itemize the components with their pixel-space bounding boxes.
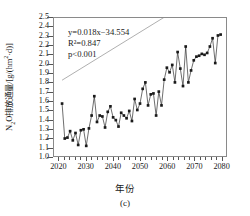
data-point-marker [109, 105, 112, 108]
x-axis-tick-labels: 2020203020402050206020702080 [0, 163, 250, 177]
y-tick-mark [47, 17, 53, 18]
data-point-marker [195, 55, 198, 58]
data-point-marker [136, 109, 139, 112]
y-tick-mark [47, 64, 53, 65]
data-point-marker [198, 54, 201, 57]
data-point-marker [152, 92, 155, 95]
data-point-marker [101, 115, 104, 118]
x-tick-mark-major [86, 157, 87, 161]
x-tick-mark-minor [91, 157, 92, 160]
x-tick-mark-minor [124, 157, 125, 160]
x-tick-label: 2020 [50, 163, 66, 171]
x-tick-mark-minor [189, 157, 190, 160]
data-point-marker [147, 104, 150, 107]
data-point-marker [71, 139, 74, 142]
y-tick-mark [47, 157, 53, 158]
data-point-marker [96, 121, 99, 124]
x-tick-label: 2040 [105, 163, 121, 171]
x-tick-mark-minor [173, 157, 174, 160]
x-tick-mark-minor [151, 157, 152, 160]
data-point-marker [141, 88, 144, 91]
x-tick-mark-minor [216, 157, 217, 160]
y-tick-mark [47, 73, 53, 74]
data-point-marker [80, 129, 83, 132]
x-tick-mark-minor [97, 157, 98, 160]
data-point-marker [166, 66, 169, 69]
data-point-marker [133, 98, 136, 101]
figure-panel-c: N2O排放通量/[g/(hm2·d)] 1.01.11.21.31.41.51.… [0, 0, 250, 216]
data-point-marker [149, 93, 152, 96]
data-point-marker [90, 114, 93, 117]
data-point-marker [66, 136, 69, 139]
data-point-marker [155, 114, 158, 117]
data-point-marker [74, 132, 77, 135]
x-tick-mark-minor [178, 157, 179, 160]
data-point-marker [123, 114, 126, 117]
y-tick-mark [47, 138, 53, 139]
x-tick-mark-major [58, 157, 59, 161]
y-tick-mark [47, 82, 53, 83]
panel-label: (c) [0, 198, 250, 208]
data-point-marker [112, 116, 115, 119]
x-tick-mark-minor [75, 157, 76, 160]
data-point-marker [211, 37, 214, 40]
data-point-marker [61, 102, 64, 105]
data-point-marker [168, 71, 171, 74]
x-tick-mark-minor [184, 157, 185, 160]
data-point-marker [179, 67, 182, 70]
data-point-marker [187, 81, 190, 84]
data-point-marker [184, 45, 187, 48]
y-tick-mark [47, 110, 53, 111]
data-point-marker [182, 85, 185, 88]
data-point-marker [214, 62, 217, 65]
data-point-marker [120, 111, 123, 114]
x-tick-mark-major [140, 157, 141, 161]
data-point-marker [176, 51, 179, 54]
x-tick-mark-minor [64, 157, 65, 160]
data-point-marker [69, 130, 72, 133]
x-tick-mark-minor [80, 157, 81, 160]
data-point-marker [93, 95, 96, 98]
data-point-marker [219, 33, 222, 36]
x-tick-mark-major [194, 157, 195, 161]
data-point-marker [157, 90, 160, 93]
x-tick-mark-minor [162, 157, 163, 160]
y-axis-title-wrapper: N2O排放通量/[g/(hm2·d)] [0, 14, 18, 160]
data-point-marker [82, 128, 85, 131]
x-tick-mark-minor [200, 157, 201, 160]
data-point-marker [63, 137, 66, 140]
data-point-marker [131, 120, 134, 123]
data-point-marker [144, 81, 147, 84]
data-point-marker [160, 104, 163, 107]
y-tick-mark [47, 26, 53, 27]
x-tick-label: 2070 [186, 163, 202, 171]
x-tick-label: 2050 [132, 163, 148, 171]
annotation-equation: y=0.018x−34.554 [68, 27, 129, 38]
x-tick-mark-minor [118, 157, 119, 160]
x-tick-mark-major [167, 157, 168, 161]
x-tick-mark-major [113, 157, 114, 161]
data-point-marker [200, 53, 203, 56]
x-tick-mark-minor [69, 157, 70, 160]
y-tick-mark [47, 148, 53, 149]
annotation-r-squared: R²=0.847 [68, 38, 129, 49]
x-tick-mark-minor [145, 157, 146, 160]
data-point-marker [209, 45, 212, 48]
y-tick-mark [47, 101, 53, 102]
y-tick-mark [47, 54, 53, 55]
x-tick-mark-minor [156, 157, 157, 160]
data-point-marker [77, 144, 80, 147]
x-tick-mark-major [222, 157, 223, 161]
data-point-marker [203, 53, 206, 56]
x-tick-mark-minor [102, 157, 103, 160]
data-point-marker [104, 126, 107, 129]
x-tick-mark-minor [107, 157, 108, 160]
data-point-marker [163, 78, 166, 81]
data-point-marker [88, 127, 91, 130]
x-tick-label: 2030 [77, 163, 93, 171]
x-tick-mark-minor [205, 157, 206, 160]
data-point-marker [106, 111, 109, 114]
data-point-marker [206, 52, 209, 55]
y-axis-title: N2O排放通量/[g/(hm2·d)] [2, 43, 16, 131]
x-tick-label: 2060 [159, 163, 175, 171]
